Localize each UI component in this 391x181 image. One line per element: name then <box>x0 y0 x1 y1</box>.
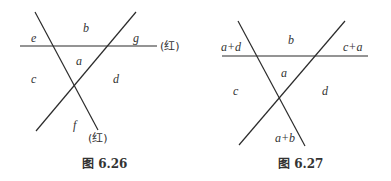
diagram-canvas: e b g a c d f (红) (红) 图 6.26 a+d b c+a a… <box>0 0 391 181</box>
region-label-left: c <box>31 72 37 86</box>
region-label-top-right: g <box>133 31 139 45</box>
figure-caption: 图 6.26 <box>82 157 127 171</box>
region-label-top-left: e <box>31 31 37 45</box>
region-label-top: b <box>288 33 294 47</box>
region-label-left: c <box>233 84 239 98</box>
region-label-bottom: f <box>73 118 78 132</box>
region-label-top-right: c+a <box>343 40 362 54</box>
figure-6-26: e b g a c d f (红) (红) 图 6.26 <box>20 12 180 171</box>
red-annotation-descending: (红) <box>88 132 108 145</box>
region-label-top: b <box>83 21 89 35</box>
region-label-bottom: a+b <box>275 131 295 145</box>
red-annotation-horizontal: (红) <box>160 40 180 53</box>
region-label-right: d <box>113 72 120 86</box>
region-label-center: a <box>281 66 287 80</box>
region-label-top-left: a+d <box>221 40 242 54</box>
region-label-right: d <box>322 84 329 98</box>
figure-caption: 图 6.27 <box>278 157 323 171</box>
figure-6-27: a+d b c+a a c d a+b 图 6.27 <box>221 21 368 171</box>
descending-line <box>238 21 305 146</box>
region-label-center: a <box>76 54 82 68</box>
